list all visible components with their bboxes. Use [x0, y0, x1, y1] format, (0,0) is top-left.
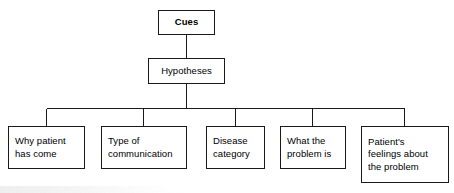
node-leaf-label: What the problem is	[287, 135, 345, 159]
node-hypotheses: Hypotheses	[148, 58, 225, 84]
scan-artifact	[0, 186, 186, 193]
node-leaf-label: Why patient has come	[15, 135, 84, 159]
node-hypotheses-label: Hypotheses	[149, 65, 224, 77]
node-leaf-label: Type of communication	[108, 135, 186, 159]
node-cues-label: Cues	[159, 16, 214, 28]
node-patients-feelings-about-the-problem: Patient's feelings about the problem	[361, 126, 449, 183]
node-leaf-label: Disease category	[213, 135, 264, 159]
node-cues: Cues	[158, 10, 215, 35]
node-disease-category: Disease category	[206, 126, 265, 169]
node-why-patient-has-come: Why patient has come	[8, 126, 85, 169]
diagram-canvas: Cues Hypotheses Why patient has come Typ…	[0, 0, 454, 193]
node-type-of-communication: Type of communication	[101, 126, 187, 169]
node-what-the-problem-is: What the problem is	[280, 126, 346, 169]
node-leaf-label: Patient's feelings about the problem	[368, 136, 448, 173]
